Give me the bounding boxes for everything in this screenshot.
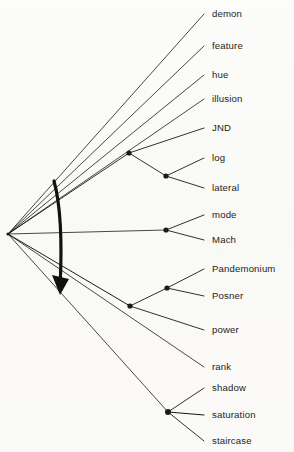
edge-root-demon	[8, 14, 204, 234]
edge-root-modemach	[8, 230, 166, 234]
leaf-label-staircase: staircase	[212, 436, 252, 446]
edge-scluster-staircase	[168, 412, 204, 441]
edge-root-pcluster	[8, 234, 130, 306]
node-pandemonium-posner	[164, 285, 169, 290]
edge-scluster-shadow	[168, 388, 204, 412]
edge-root-feature	[8, 46, 204, 234]
leaf-label-lateral: lateral	[212, 183, 239, 193]
leaf-label-hue: hue	[212, 70, 228, 80]
root-node	[6, 232, 9, 235]
edge-root-cluster-jnd	[8, 153, 129, 234]
leaf-label-illusion: illusion	[212, 94, 243, 104]
hand-drawn-curved-arrow-curve	[54, 181, 61, 288]
hand-drawn-curved-arrow-head	[52, 275, 69, 295]
leaf-label-demon: demon	[212, 9, 242, 19]
leaf-label-saturation: saturation	[212, 410, 256, 420]
edges-group	[8, 14, 204, 441]
leaf-label-shadow: shadow	[212, 383, 246, 393]
leaf-label-feature: feature	[212, 41, 243, 51]
edge-modemach-mode	[166, 215, 204, 230]
edge-modemach-mach	[166, 230, 204, 240]
edge-cluster-jnd-sub	[129, 153, 166, 176]
edge-cluster-jnd-leaf	[129, 128, 204, 153]
edge-root-scluster	[8, 234, 168, 412]
edge-sub-log	[166, 158, 204, 176]
leaf-label-log: log	[212, 153, 225, 163]
node-log-lateral	[163, 173, 168, 178]
node-pandemonium-posner-power	[127, 303, 132, 308]
node-mode-mach	[163, 227, 168, 232]
edge-pp-pandemonium	[167, 269, 204, 288]
edge-pp-posner	[167, 288, 204, 296]
leaf-label-posner: Posner	[212, 291, 243, 301]
node-shadow-saturation-staircase	[165, 409, 171, 415]
leaf-label-power: power	[212, 325, 239, 335]
leaf-label-rank: rank	[212, 362, 231, 372]
edge-root-rank	[8, 234, 204, 367]
leaf-label-pandemonium: Pandemonium	[212, 264, 276, 274]
edge-root-hue	[8, 75, 204, 234]
edge-pcluster-power	[130, 306, 204, 330]
leaf-label-mach: Mach	[212, 235, 236, 245]
dendrogram-figure: demonfeaturehueillusionJNDloglateralmode…	[0, 0, 294, 452]
edge-sub-lateral	[166, 176, 204, 188]
node-jnd-log-lateral	[126, 150, 131, 155]
edge-scluster-saturation	[168, 412, 204, 415]
nodes-group	[6, 150, 171, 415]
leaf-label-mode: mode	[212, 210, 237, 220]
leaf-label-jnd: JND	[212, 123, 231, 133]
edge-root-illusion	[8, 99, 204, 234]
dendrogram-canvas	[0, 0, 294, 452]
edge-pcluster-pp	[130, 288, 167, 306]
